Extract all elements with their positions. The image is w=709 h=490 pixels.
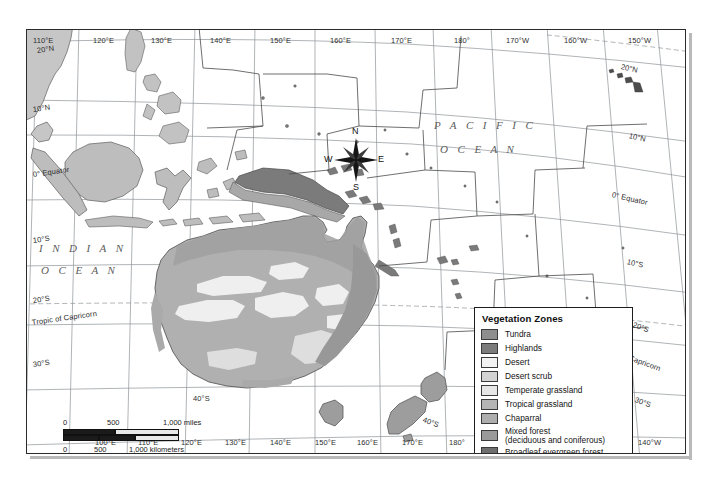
legend-label-desert: Desert [505,358,529,367]
legend-swatch-chaparral [481,413,498,424]
legend-item-broadleaf-evergreen-forest[interactable]: Broadleaf evergreen forest [481,446,626,454]
legend-label-tundra: Tundra [505,330,531,339]
graticule-label-bottom-160E: 160°E [357,438,378,447]
legend-item-desert[interactable]: Desert [481,356,626,369]
legend-item-highlands[interactable]: Highlands [481,342,626,355]
indian-ocean-label-line2: O C E A N [41,264,118,276]
legend-swatch-broadleaf-evergreen-forest [481,447,498,454]
graticule-label-top-160E: 160°E [330,36,351,45]
legend-label-highlands: Highlands [505,344,542,353]
legend-item-mixed-forest[interactable]: Mixed forest (deciduous and coniferous) [481,426,626,445]
legend-label-broadleaf-evergreen-forest: Broadleaf evergreen forest [505,448,603,454]
compass-south-label: S [353,182,359,192]
scale-km-tick-0: 0 [63,445,67,454]
scale-miles-ticks: 0 500 1,000 miles [63,418,243,428]
scale-seg-km-1 [63,435,99,441]
legend-label-tropical-grassland: Tropical grassland [505,400,572,409]
legend-label-chaparral: Chaparral [505,414,541,423]
legend-swatch-tundra [481,329,498,340]
graticule-label-top-130E: 130°E [151,36,172,45]
legend-swatch-highlands [481,343,498,354]
graticule-label-top-120E: 120°E [93,36,114,45]
legend-label-mixed-forest: Mixed forest (deciduous and coniferous) [505,427,605,444]
legend-item-chaparral[interactable]: Chaparral [481,412,626,425]
map-page: 110°E 120°E 130°E 140°E 150°E 160°E 170°… [0,0,709,490]
indian-ocean-label-line1: I N D I A N [39,242,126,254]
graticule-label-bottom-180: 180° [449,438,465,447]
compass-west-label: W [324,154,333,164]
graticule-label-bottom-170E: 170°E [402,438,423,447]
graticule-label-top-160W: 160°W [564,36,587,45]
pacific-ocean-label-line1: P A C I F I C [434,119,536,131]
graticule-label-bottom-140E: 140°E [270,438,291,447]
legend-swatch-desert [481,357,498,368]
scale-bar-graphic [63,429,203,443]
pacific-ocean-label-line2: O C E A N [440,143,517,155]
legend-item-tropical-grassland[interactable]: Tropical grassland [481,398,626,411]
graticule-label-40S-left: 40°S [193,394,210,403]
legend-swatch-mixed-forest [481,430,498,441]
graticule-label-top-170W: 170°W [506,36,529,45]
legend-item-tundra[interactable]: Tundra [481,328,626,341]
legend-panel: Vegetation Zones Tundra Highlands Desert… [474,307,633,454]
scale-seg-km-2 [99,435,135,441]
legend-label-temperate-grassland: Temperate grassland [505,386,582,395]
legend-item-desert-scrub[interactable]: Desert scrub [481,370,626,383]
graticule-label-top-140E: 140°E [210,36,231,45]
compass-rose: N S W E [323,126,389,194]
scale-km-ticks: 0 500 1,000 kilometers [63,445,243,454]
scale-miles-tick-500: 500 [107,418,120,427]
compass-east-label: E [378,154,384,164]
scale-miles-tick-1000: 1,000 miles [163,418,201,427]
legend-swatch-tropical-grassland [481,399,498,410]
map-frame: 110°E 120°E 130°E 140°E 150°E 160°E 170°… [26,29,686,454]
graticule-label-top-180: 180° [454,36,470,45]
legend-swatch-temperate-grassland [481,385,498,396]
graticule-label-bottom-150E: 150°E [315,438,336,447]
compass-north-label: N [352,126,359,136]
legend-item-temperate-grassland[interactable]: Temperate grassland [481,384,626,397]
legend-label-desert-scrub: Desert scrub [505,372,552,381]
scale-miles-tick-0: 0 [63,418,67,427]
scale-km-tick-1000: 1,000 kilometers [129,445,184,454]
graticule-label-top-150W: 150°W [628,36,651,45]
legend-title: Vegetation Zones [482,313,626,324]
scale-km-tick-500: 500 [94,445,107,454]
legend-swatch-desert-scrub [481,371,498,382]
graticule-label-top-150E: 150°E [270,36,291,45]
scale-bar: 0 500 1,000 miles 0 500 1,000 kilometers… [63,418,243,454]
graticule-label-top-170E: 170°E [391,36,412,45]
scale-seg-km-3 [135,435,179,441]
graticule-label-bottom-140W: 140°W [638,438,661,447]
